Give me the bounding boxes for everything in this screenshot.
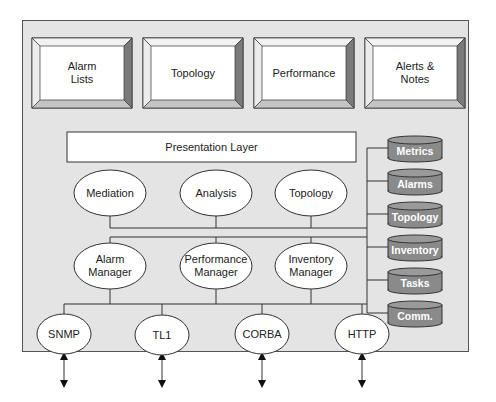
node-topology: Topology	[275, 170, 347, 216]
node-tl1: TL1	[135, 315, 189, 355]
db-inventory: Inventory	[388, 241, 442, 259]
presentation-layer-label: Presentation Layer	[67, 132, 356, 162]
node-analysis: Analysis	[180, 170, 252, 216]
panel-label-topology: Topology	[151, 46, 235, 100]
node-snmp: SNMP	[37, 314, 91, 354]
db-metrics: Metrics	[388, 142, 442, 160]
db-alarms: Alarms	[388, 175, 442, 193]
node-http: HTTP	[335, 314, 389, 354]
node-corba: CORBA	[235, 314, 289, 354]
db-comm: Comm.	[388, 307, 442, 325]
db-topology: Topology	[388, 208, 442, 226]
panel-label-performance: Performance	[262, 46, 346, 100]
node-performance-manager: Performance Manager	[178, 243, 254, 289]
db-tasks: Tasks	[388, 274, 442, 292]
node-inventory-manager: Inventory Manager	[275, 243, 347, 289]
node-alarm-manager: Alarm Manager	[74, 243, 146, 289]
panel-label-alarm-lists: Alarm Lists	[40, 46, 124, 100]
panel-label-alerts-notes: Alerts & Notes	[373, 46, 457, 100]
bidirectional-arrow-icons	[60, 352, 366, 388]
database-cylinders	[388, 136, 442, 327]
node-mediation: Mediation	[74, 170, 146, 216]
